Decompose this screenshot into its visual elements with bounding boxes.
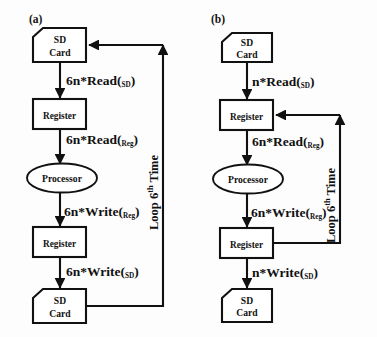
node-a-sd-card-top-line2: Card bbox=[49, 47, 71, 58]
edge-b-e3-sub: Reg bbox=[310, 213, 322, 221]
loop-a-label-tail: Time bbox=[147, 154, 161, 185]
edge-b-e3-base: 6n*Write bbox=[251, 205, 306, 220]
edge-b-e4-label: n*Write(SD) bbox=[252, 265, 318, 281]
node-b-sd-card-top-line2: Card bbox=[236, 49, 258, 60]
node-b-sd-card-top-line1: SD bbox=[241, 37, 253, 48]
edge-a-e2-label: 6n*Read(Reg) bbox=[66, 132, 138, 148]
edge-a-e4-label: 6n*Write(SD) bbox=[66, 264, 139, 280]
edge-a-e3-sub: Reg bbox=[123, 212, 135, 220]
node-b-register-top: Register bbox=[220, 100, 273, 130]
edge-b-e2-sub: Reg bbox=[308, 142, 320, 150]
node-b-sd-card-bottom: SD Card bbox=[222, 289, 272, 322]
node-a-register-top: Register bbox=[33, 99, 86, 129]
edge-a-e1-label: 6n*Read(SD) bbox=[66, 73, 135, 89]
edge-b-e4-sub: SD bbox=[304, 273, 313, 281]
edge-b-e1-base: n*Read bbox=[252, 74, 297, 89]
edge-b-e2-label: 6n*Read(Reg) bbox=[252, 134, 324, 150]
loop-a-label-base: Loop 6 bbox=[147, 193, 161, 230]
node-a-sd-card-top: SD Card bbox=[33, 28, 86, 62]
edge-a-e4-base: 6n*Write bbox=[66, 264, 121, 279]
loop-b-label: Loop 6th Time bbox=[323, 167, 338, 243]
edge-a-e1-base: 6n*Read bbox=[66, 73, 117, 88]
edge-b-e1-label: n*Read(SD) bbox=[252, 74, 314, 90]
node-a-sd-card-bottom-line2: Card bbox=[49, 308, 71, 319]
edge-a-e1-sub: SD bbox=[122, 81, 131, 89]
node-b-sd-card-bottom-line1: SD bbox=[241, 295, 253, 306]
node-b-processor: Processor bbox=[213, 165, 283, 194]
edge-a-e3-base: 6n*Write bbox=[64, 204, 119, 219]
node-b-register-bottom-label: Register bbox=[230, 240, 263, 250]
node-a-processor-label: Processor bbox=[42, 173, 83, 184]
edge-b-e2-base: 6n*Read bbox=[252, 134, 303, 149]
edge-a-e2-base: 6n*Read bbox=[66, 132, 117, 147]
node-a-processor: Processor bbox=[27, 164, 97, 193]
node-a-register-bottom: Register bbox=[33, 227, 86, 257]
node-b-register-top-label: Register bbox=[230, 112, 263, 122]
node-b-sd-card-top: SD Card bbox=[222, 33, 272, 62]
edge-b-e3-label: 6n*Write(Reg) bbox=[251, 205, 326, 221]
edge-b-e1-sub: SD bbox=[301, 82, 310, 90]
node-b-processor-label: Processor bbox=[228, 174, 269, 185]
edge-b-e4-base: n*Write bbox=[252, 265, 300, 280]
node-a-register-bottom-label: Register bbox=[43, 239, 76, 249]
loop-b-label-tail: Time bbox=[324, 167, 338, 198]
loop-b-label-base: Loop 6 bbox=[324, 206, 338, 243]
edge-a-e3-label: 6n*Write(Reg) bbox=[64, 204, 139, 220]
figure-canvas: (a) (b) SD Card 6n*Read(SD) Register 6n*… bbox=[0, 0, 377, 337]
edge-a-e4-sub: SD bbox=[125, 272, 134, 280]
node-a-sd-card-top-line1: SD bbox=[54, 34, 66, 45]
node-b-sd-card-bottom-line2: Card bbox=[236, 307, 258, 318]
edge-a-e2-sub: Reg bbox=[122, 140, 134, 148]
node-b-register-bottom: Register bbox=[220, 228, 273, 258]
node-a-sd-card-bottom-line1: SD bbox=[54, 295, 66, 306]
loop-a-label: Loop 6th Time bbox=[146, 154, 161, 230]
node-a-sd-card-bottom: SD Card bbox=[33, 289, 86, 323]
flowchart-svg: SD Card 6n*Read(SD) Register 6n*Read(Reg… bbox=[0, 0, 377, 337]
node-a-register-top-label: Register bbox=[43, 111, 76, 121]
